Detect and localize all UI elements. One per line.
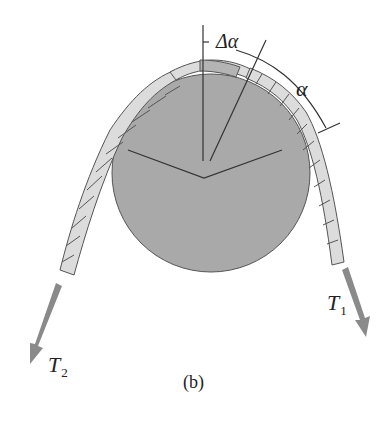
alpha-arc-endcap	[318, 123, 340, 133]
delta-alpha-label: Δα	[216, 30, 238, 53]
alpha-label: α	[296, 76, 308, 102]
t2-subscript: 2	[61, 365, 68, 380]
t2-label: T2	[48, 352, 68, 378]
t2-main: T	[48, 352, 60, 377]
t1-label: T1	[327, 290, 347, 316]
tension-arrows	[30, 267, 370, 364]
figure-caption: (b)	[183, 372, 204, 393]
t1-subscript: 1	[340, 303, 347, 318]
t1-main: T	[327, 290, 339, 315]
